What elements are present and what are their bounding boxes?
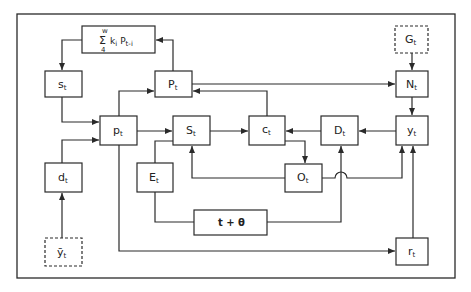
edge-O-to-S	[192, 146, 285, 178]
delay-label: t + θ	[218, 217, 245, 228]
edge-E-to-delay	[155, 192, 194, 222]
edge-sum-to-s	[62, 40, 82, 70]
edge-d-to-p	[62, 140, 99, 163]
edge-c-to-P	[193, 91, 267, 116]
sum-lower-limit: 4	[101, 46, 106, 54]
sum-box	[82, 26, 155, 53]
edge-c-to-O	[285, 141, 305, 163]
edge-P-to-sum	[156, 40, 173, 71]
edge-E-to-S	[155, 141, 173, 163]
edge-p-to-P	[119, 91, 154, 116]
edge-O-to-y	[322, 146, 402, 178]
edge-s-to-p	[62, 97, 99, 122]
block-diagram: w Σ 4 kiPt-i st Pt pt St ct Dt yt Nt Gt …	[0, 0, 471, 292]
